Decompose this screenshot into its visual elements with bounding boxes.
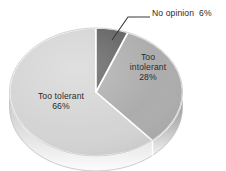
slice-label-no-opinion: No opinion6% xyxy=(152,8,212,18)
slice-label-too-intolerant-line1: Too xyxy=(117,52,179,62)
slice-label-no-opinion-text: No opinion xyxy=(152,8,194,18)
pie-chart-graphic xyxy=(0,0,226,171)
slice-label-too-intolerant-percent: 28% xyxy=(117,72,179,82)
slice-label-too-tolerant-line1: Too tolerant xyxy=(20,91,102,101)
slice-label-too-tolerant: Too tolerant 66% xyxy=(20,91,102,111)
pie-chart-figure: No opinion6% Too intolerant 28% Too tole… xyxy=(0,0,226,171)
slice-label-too-intolerant: Too intolerant 28% xyxy=(117,52,179,83)
slice-label-no-opinion-percent: 6% xyxy=(199,8,212,18)
slice-label-too-tolerant-percent: 66% xyxy=(20,101,102,111)
slice-label-too-intolerant-line2: intolerant xyxy=(117,62,179,72)
